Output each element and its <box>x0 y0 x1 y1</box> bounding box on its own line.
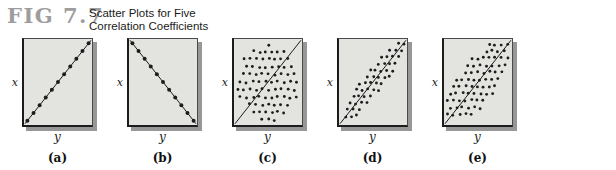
scatter-panel: x y (b) <box>113 38 198 165</box>
scatter-plot <box>234 39 302 125</box>
panel-caption: (e) <box>442 151 513 165</box>
plot-area <box>22 38 93 127</box>
scatter-plot <box>129 39 197 125</box>
vertical-axis-label: x <box>12 76 22 89</box>
horizontal-axis-label: y <box>232 130 303 144</box>
plot-area <box>232 38 303 127</box>
panel-caption: (a) <box>22 151 93 165</box>
plot-area <box>442 38 513 127</box>
panel-caption: (b) <box>127 151 198 165</box>
vertical-axis-label: x <box>432 76 442 89</box>
scatter-panel: x y (c) <box>218 38 303 165</box>
scatter-plot <box>444 39 512 125</box>
horizontal-axis-label: y <box>337 130 408 144</box>
vertical-axis-label: x <box>327 76 337 89</box>
scatter-plot <box>24 39 92 125</box>
horizontal-axis-label: y <box>22 130 93 144</box>
figure-title-line2: Correlation Coefficients <box>89 20 208 33</box>
panel-caption: (d) <box>337 151 408 165</box>
scatter-panels-row: x y (a) x y (b) x y (c) x y (d) x y (e) <box>8 38 513 165</box>
figure-title: Scatter Plots for Five Correlation Coeff… <box>89 7 208 33</box>
scatter-panel: x y (d) <box>323 38 408 165</box>
horizontal-axis-label: y <box>127 130 198 144</box>
plot-area <box>337 38 408 127</box>
figure-title-line1: Scatter Plots for Five <box>89 7 208 20</box>
panel-caption: (c) <box>232 151 303 165</box>
scatter-panel: x y (a) <box>8 38 93 165</box>
vertical-axis-label: x <box>117 76 127 89</box>
vertical-axis-label: x <box>222 76 232 89</box>
scatter-plot <box>339 39 407 125</box>
plot-area <box>127 38 198 127</box>
scatter-panel: x y (e) <box>428 38 513 165</box>
horizontal-axis-label: y <box>442 130 513 144</box>
